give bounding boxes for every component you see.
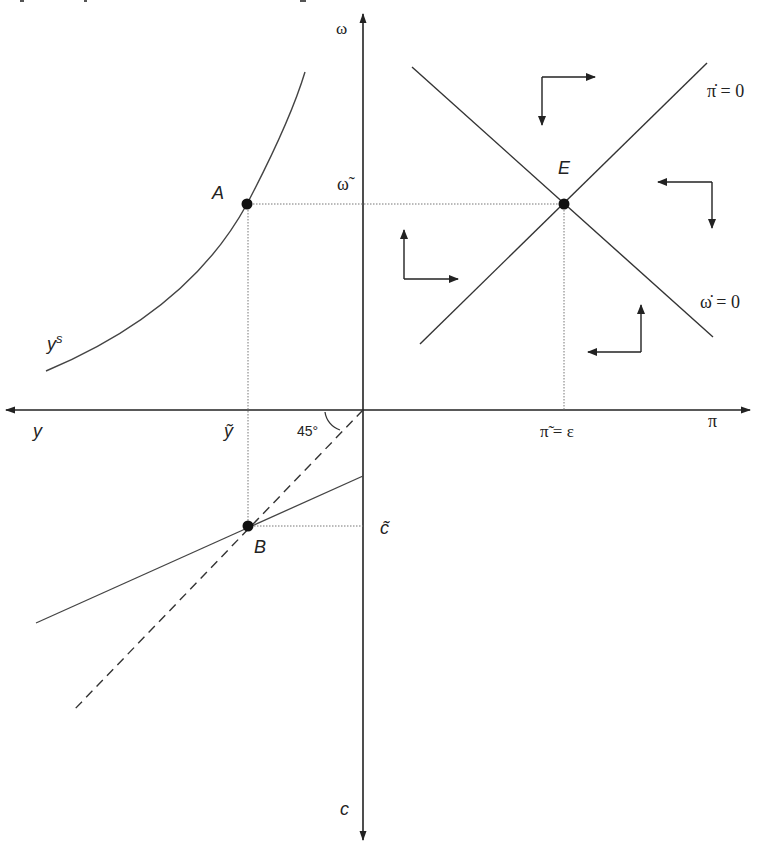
phase-arrow-right <box>658 182 712 228</box>
labor-supply-label: ys <box>45 331 63 354</box>
forty-five-degree-line <box>72 410 363 712</box>
axis-label-pi: π <box>708 411 717 431</box>
phase-arrow-top <box>542 77 595 125</box>
phase-arrow-bottom <box>588 305 641 352</box>
omega-tilde-label: ω̃ <box>337 174 355 194</box>
angle-45-label: 45° <box>297 423 318 439</box>
cropped-header-text <box>20 0 306 2</box>
phase-arrow-left <box>404 230 458 279</box>
angle-arc-icon <box>325 412 340 430</box>
labor-supply-curve <box>46 72 305 371</box>
point-e-dot <box>559 199 570 210</box>
axis-label-omega: ω <box>336 19 347 38</box>
omega-dot-nullcline-label: ω̇ = 0 <box>700 292 740 312</box>
guide-lines <box>247 204 564 526</box>
pi-tilde-equals-epsilon-label: π̃ = ε <box>540 422 574 441</box>
axes <box>6 14 750 840</box>
point-b-dot <box>243 521 254 532</box>
point-b-label: B <box>254 537 266 557</box>
point-e-label: E <box>558 158 571 178</box>
pi-dot-nullcline-label: π̇ = 0 <box>707 81 744 101</box>
y-tilde-label: ỹ <box>222 421 234 441</box>
axis-label-y: y <box>31 421 43 441</box>
consumption-line <box>36 476 363 623</box>
c-tilde-label: c̃ <box>380 518 391 538</box>
phase-arrows <box>404 77 712 352</box>
point-a-dot <box>242 199 253 210</box>
axis-label-c: c <box>340 799 349 819</box>
point-a-label: A <box>211 183 224 203</box>
phase-diagram: ω π y c A E B ω̃ ỹ π̃ = ε c̃ 45° ys π̇ =… <box>0 0 757 854</box>
